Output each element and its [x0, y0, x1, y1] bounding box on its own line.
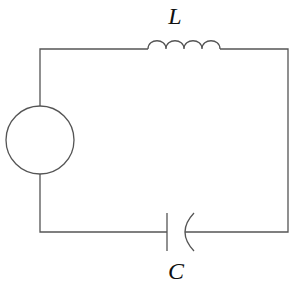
ac-source-circle [6, 106, 74, 174]
capacitor-label: C [168, 258, 185, 284]
wire-top-right [185, 49, 288, 232]
inductor-label: L [167, 3, 181, 29]
inductor-coil [148, 41, 220, 49]
circuit-diagram: L C [0, 0, 296, 298]
wire-top-left [40, 49, 148, 106]
wire-bottom-left [40, 174, 167, 232]
